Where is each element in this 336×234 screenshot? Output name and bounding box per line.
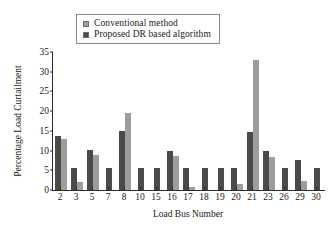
bar-group xyxy=(165,52,181,190)
bar-conventional-method xyxy=(253,60,259,190)
bar-proposed-dr-based-algorithm xyxy=(154,168,160,190)
bar-chart-figure: Conventional method Proposed DR based al… xyxy=(0,0,336,234)
x-axis-tick-mark xyxy=(204,187,205,191)
bar-proposed-dr-based-algorithm xyxy=(282,168,288,190)
x-axis-tick-text: 8 xyxy=(122,192,127,202)
bar-proposed-dr-based-algorithm xyxy=(218,168,224,190)
bar-conventional-method xyxy=(189,187,195,190)
x-axis-tick-label: 3 xyxy=(68,191,84,203)
x-axis-tick-text: 30 xyxy=(311,192,321,202)
x-axis-tick-label: 19 xyxy=(212,191,228,203)
bar-group xyxy=(261,52,277,190)
legend-label-proposed-dr-based-algorithm: Proposed DR based algorithm xyxy=(94,29,211,40)
x-axis-tick-mark xyxy=(172,187,173,191)
x-axis-tick-label: 21 xyxy=(244,191,260,203)
x-axis-tick-text: 23 xyxy=(263,192,273,202)
bar-group xyxy=(277,52,293,190)
x-axis-label: Load Bus Number xyxy=(52,208,324,220)
x-axis-tick-mark xyxy=(108,187,109,191)
bar-conventional-method xyxy=(269,157,275,191)
x-axis-tick-mark xyxy=(76,187,77,191)
x-axis-tick-label: 2 xyxy=(52,191,68,203)
x-axis-tick-label: 17 xyxy=(180,191,196,203)
chart-legend: Conventional method Proposed DR based al… xyxy=(76,14,220,44)
x-axis-tick-text: 7 xyxy=(106,192,111,202)
x-axis-tick-text: 29 xyxy=(295,192,305,202)
bar-group xyxy=(133,52,149,190)
bar-group xyxy=(229,52,245,190)
x-axis-tick-text: 10 xyxy=(135,192,145,202)
x-axis-tick-label: 30 xyxy=(308,191,324,203)
bar-group xyxy=(213,52,229,190)
bar-group xyxy=(197,52,213,190)
x-axis-tick-label: 8 xyxy=(116,191,132,203)
x-axis-tick-text: 17 xyxy=(183,192,193,202)
bar-groups xyxy=(53,52,325,190)
x-axis-tick-text: 3 xyxy=(74,192,79,202)
bar-conventional-method xyxy=(61,139,67,190)
legend-item-conventional-method: Conventional method xyxy=(83,18,211,29)
x-axis-tick-mark xyxy=(268,187,269,191)
bar-group xyxy=(69,52,85,190)
x-axis-tick-mark xyxy=(124,187,125,191)
bar-group xyxy=(101,52,117,190)
x-axis-tick-mark xyxy=(300,187,301,191)
x-axis-tick-label: 7 xyxy=(100,191,116,203)
bar-conventional-method xyxy=(77,182,83,190)
x-axis-tick-text: 5 xyxy=(90,192,95,202)
bar-group xyxy=(245,52,261,190)
x-axis-tick-label: 18 xyxy=(196,191,212,203)
x-axis-tick-mark xyxy=(156,187,157,191)
x-axis-tick-text: 19 xyxy=(215,192,225,202)
bar-conventional-method xyxy=(237,184,243,190)
x-axis-tick-text: 20 xyxy=(231,192,241,202)
bar-group xyxy=(85,52,101,190)
y-axis-label: Percentage Load Curtailment xyxy=(12,52,24,190)
x-axis-tick-mark xyxy=(236,187,237,191)
x-axis-tick-text: 15 xyxy=(151,192,161,202)
x-axis-ticks: 23578101516171819202123262930 xyxy=(52,191,324,203)
x-axis-tick-label: 26 xyxy=(276,191,292,203)
bar-group xyxy=(293,52,309,190)
legend-item-proposed-dr-based-algorithm: Proposed DR based algorithm xyxy=(83,29,211,40)
x-axis-tick-label: 29 xyxy=(292,191,308,203)
bar-group xyxy=(53,52,69,190)
x-axis-tick-text: 2 xyxy=(58,192,63,202)
legend-swatch-conventional-method xyxy=(83,21,89,27)
x-axis-tick-mark xyxy=(284,187,285,191)
x-axis-tick-label: 23 xyxy=(260,191,276,203)
bar-conventional-method xyxy=(301,181,307,190)
x-axis-tick-label: 5 xyxy=(84,191,100,203)
x-axis-tick-text: 21 xyxy=(247,192,257,202)
bar-conventional-method xyxy=(93,155,99,190)
x-axis-tick-mark xyxy=(316,187,317,191)
bar-proposed-dr-based-algorithm xyxy=(106,168,112,190)
x-axis-tick-mark xyxy=(60,187,61,191)
bar-group xyxy=(181,52,197,190)
x-axis-tick-text: 16 xyxy=(167,192,177,202)
x-axis-tick-text: 26 xyxy=(279,192,289,202)
x-axis-tick-mark xyxy=(92,187,93,191)
bar-proposed-dr-based-algorithm xyxy=(202,168,208,190)
plot-area: Percentage Load Curtailment 051015202530… xyxy=(52,52,325,191)
x-axis-tick-text: 18 xyxy=(199,192,209,202)
bar-proposed-dr-based-algorithm xyxy=(314,168,320,190)
x-axis-tick-label: 10 xyxy=(132,191,148,203)
legend-swatch-proposed-dr-based-algorithm xyxy=(83,32,89,38)
x-axis-tick-mark xyxy=(140,187,141,191)
x-axis-tick-label: 16 xyxy=(164,191,180,203)
x-axis-tick-label: 15 xyxy=(148,191,164,203)
x-axis-tick-label: 20 xyxy=(228,191,244,203)
bar-conventional-method xyxy=(173,156,179,190)
bar-group xyxy=(117,52,133,190)
x-axis-tick-mark xyxy=(252,187,253,191)
bar-proposed-dr-based-algorithm xyxy=(138,168,144,190)
bar-group xyxy=(149,52,165,190)
x-axis-tick-mark xyxy=(188,187,189,191)
legend-label-conventional-method: Conventional method xyxy=(94,18,178,29)
x-axis-tick-mark xyxy=(220,187,221,191)
bar-group xyxy=(309,52,325,190)
bar-conventional-method xyxy=(125,113,131,190)
